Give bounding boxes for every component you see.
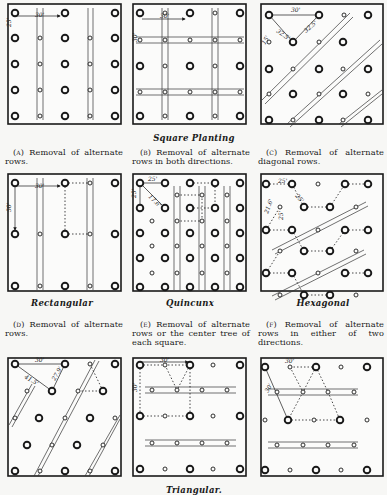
caption-d: (d) Removal of alternate rows. [5, 320, 123, 338]
tree-icon [187, 255, 194, 262]
dimension-label: 30' [160, 356, 170, 363]
removed-tree-icon [113, 416, 117, 420]
tree-icon [162, 284, 169, 291]
dimension-label: 30' [35, 356, 45, 363]
tree-icon [62, 283, 69, 290]
tree-icon [364, 467, 371, 474]
tree-icon [262, 467, 269, 474]
tree-icon [100, 388, 107, 395]
tree-icon [285, 417, 292, 424]
tree-icon [12, 35, 19, 42]
removed-tree-icon [317, 92, 321, 96]
tree-icon [237, 10, 244, 17]
removed-tree-icon [200, 244, 204, 248]
removed-tree-icon [175, 244, 179, 248]
tree-icon [327, 248, 334, 255]
removed-tree-icon [341, 118, 345, 122]
tree-icon [290, 39, 297, 46]
tree-icon [365, 181, 372, 188]
caption-f: (f) Removal of alternate rows in either … [258, 320, 384, 347]
removed-tree-icon [163, 90, 167, 94]
dimension-label: 25' [5, 17, 12, 28]
tree-icon [342, 181, 349, 188]
removed-tree-icon [163, 414, 167, 418]
caption-e: (e) Removal of alternate rows or the cen… [132, 320, 250, 347]
tree-icon [62, 87, 69, 94]
tree-icon [237, 255, 244, 262]
caption-a: (a) Removal of alternate rows. [5, 148, 123, 166]
tree-icon [187, 180, 194, 187]
removed-tree-icon [175, 193, 179, 197]
removed-tree-icon [213, 38, 217, 42]
caption-text: Removal of alternate diagonal rows. [258, 147, 384, 166]
tree-icon [62, 113, 69, 120]
removed-tree-icon [88, 469, 92, 473]
tree-icon [237, 180, 244, 187]
removed-tree-icon [354, 293, 358, 297]
plot-border [261, 4, 383, 124]
removed-tree-icon [267, 92, 271, 96]
removed-tree-icon [238, 90, 242, 94]
tree-icon [342, 227, 349, 234]
removed-tree-icon [38, 36, 42, 40]
removed-tree-icon [278, 293, 282, 297]
tree-icon [12, 231, 19, 238]
tree-icon [137, 284, 144, 291]
removed-tree-icon [38, 88, 42, 92]
removed-tree-icon [278, 249, 282, 253]
tree-icon [137, 230, 144, 237]
removed-tree-icon [316, 182, 320, 186]
removed-tree-icon [88, 36, 92, 40]
tree-icon [162, 180, 169, 187]
removed-tree-icon [275, 390, 279, 394]
removed-tree-icon [354, 249, 358, 253]
tree-icon [340, 39, 347, 46]
removed-tree-icon [188, 38, 192, 42]
section-title: Quincunx [130, 298, 250, 308]
tree-icon [212, 230, 219, 237]
tree-icon [313, 467, 320, 474]
removed-tree-icon [291, 67, 295, 71]
tree-icon [187, 10, 194, 17]
section-title: Square Planting [134, 133, 254, 143]
removed-tree-icon [339, 468, 343, 472]
dimension-label: 30' [131, 32, 138, 42]
removed-tree-icon [366, 92, 370, 96]
caption-c: (c) Removal of alternate diagonal rows. [258, 148, 384, 166]
tree-icon [187, 63, 194, 70]
removed-tree-icon [213, 114, 217, 118]
tree-icon [12, 87, 19, 94]
tree-icon [112, 180, 119, 187]
panel-c: 30'32.5'32.5'15' [260, 4, 383, 127]
tree-icon [237, 466, 244, 473]
removed-tree-icon [175, 271, 179, 275]
tree-icon [112, 361, 119, 368]
removed-tree-icon [150, 441, 154, 445]
tree-icon [112, 10, 119, 17]
dimension-label: 50' [5, 202, 12, 212]
removed-tree-icon [175, 219, 179, 223]
panel-f: 25'25'21.6'25' [261, 174, 383, 300]
removed-tree-icon [213, 11, 217, 15]
caption-text: Removal of alternate rows in either of t… [258, 319, 384, 347]
removed-tree-icon [163, 467, 167, 471]
removed-tree-icon [163, 38, 167, 42]
tree-icon [301, 204, 308, 211]
tree-icon [237, 205, 244, 212]
dimension-label: 30' [285, 357, 295, 364]
tree-icon [327, 204, 334, 211]
removed-tree-icon [326, 443, 330, 447]
removed-tree-icon [38, 232, 42, 236]
tree-icon [112, 231, 119, 238]
section-title: Rectangular [2, 298, 122, 308]
tree-icon [263, 227, 270, 234]
tree-icon [12, 113, 19, 120]
tree-icon [24, 442, 31, 449]
removed-tree-icon [88, 62, 92, 66]
dimension-label: 30' [160, 12, 170, 19]
tree-icon [62, 180, 69, 187]
tree-icon [187, 413, 194, 420]
tree-icon [364, 364, 371, 371]
tree-icon [187, 113, 194, 120]
tree-icon [313, 364, 320, 371]
